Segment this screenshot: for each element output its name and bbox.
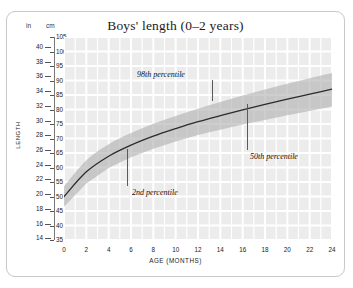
x-tick-label: 8 <box>145 246 161 253</box>
inches-tick-label: 28 <box>29 131 43 138</box>
growth-chart-card: Boys' length (0–2 years) in cm LENGTH AG… <box>6 11 345 277</box>
inches-tick-label: 16 <box>29 220 43 227</box>
plot-svg <box>64 37 332 240</box>
inches-tickmark <box>45 150 51 151</box>
inches-tick-label: 38 <box>29 58 43 65</box>
x-tick-label: 20 <box>279 246 295 253</box>
inches-tick-label: 32 <box>29 102 43 109</box>
cm-tickmark <box>50 240 54 241</box>
inches-tick-label: 20 <box>29 190 43 197</box>
inches-tickmark <box>45 194 51 195</box>
x-tick-label: 6 <box>123 246 139 253</box>
inches-tickmark <box>45 165 51 166</box>
inches-tick-label: 24 <box>29 161 43 168</box>
y-axis-title: LENGTH <box>15 105 21 165</box>
x-tick-label: 14 <box>212 246 228 253</box>
inches-tickmark <box>45 76 51 77</box>
centimeters-unit-label: cm <box>46 22 55 29</box>
x-axis-title: AGE (MONTHS) <box>7 257 344 264</box>
inches-tick-label: 18 <box>29 205 43 212</box>
inches-tickmark <box>45 121 51 122</box>
inches-tickmark <box>45 106 51 107</box>
inches-tick-label: 34 <box>29 87 43 94</box>
x-tick-label: 4 <box>101 246 117 253</box>
inches-tickmark <box>45 209 51 210</box>
annotation-2nd-percentile-leader-line <box>127 149 128 186</box>
inches-tick-label: 40 <box>29 43 43 50</box>
inches-tickmark <box>45 62 51 63</box>
plot-area <box>64 37 332 240</box>
inches-tick-label: 14 <box>29 234 43 241</box>
x-tick-label: 10 <box>168 246 184 253</box>
x-tick-label: 24 <box>324 246 340 253</box>
inches-tickmark <box>45 224 51 225</box>
annotation-98th-percentile-leader-line <box>212 80 213 101</box>
x-tick-label: 18 <box>257 246 273 253</box>
annotation-50th-percentile-leader-line <box>247 104 248 150</box>
inches-unit-label: in <box>26 22 31 29</box>
x-tick-label: 0 <box>56 246 72 253</box>
annotation-2nd-percentile: 2nd percentile <box>132 188 178 197</box>
inches-tickmark <box>45 238 51 239</box>
page-title: Boys' length (0–2 years) <box>7 18 344 34</box>
x-tick-label: 16 <box>235 246 251 253</box>
x-tick-label: 12 <box>190 246 206 253</box>
inches-tick-label: 30 <box>29 117 43 124</box>
x-tick-label: 22 <box>302 246 318 253</box>
inches-tickmark <box>45 179 51 180</box>
inches-tickmark <box>45 135 51 136</box>
inches-tick-label: 36 <box>29 72 43 79</box>
inches-tick-label: 22 <box>29 175 43 182</box>
cm-axis-spine <box>54 37 55 240</box>
x-tick-label: 2 <box>78 246 94 253</box>
annotation-98th-percentile: 98th percentile <box>137 70 185 79</box>
inches-tickmark <box>45 47 51 48</box>
inches-tick-label: 26 <box>29 146 43 153</box>
annotation-50th-percentile: 50th percentile <box>250 152 298 161</box>
inches-tickmark <box>45 91 51 92</box>
